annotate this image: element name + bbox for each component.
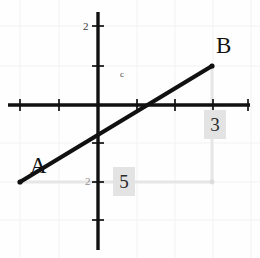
triangle-corner-dot <box>210 180 215 185</box>
point-label-b: B <box>216 34 231 57</box>
y-axis-tick-label-minus-2: 2 <box>85 176 91 187</box>
point-label-a: A <box>30 154 47 177</box>
coordinate-plane-figure: 2 2 c A B 5 3 <box>0 0 260 258</box>
rise-measure-label: 3 <box>204 110 226 139</box>
segment-ab <box>20 66 212 182</box>
line-name-c-annotation: c <box>120 70 124 79</box>
y-axis-tick-label-2: 2 <box>83 21 89 32</box>
endpoint-a-dot <box>17 179 22 184</box>
endpoint-b-dot <box>209 63 214 68</box>
run-measure-label: 5 <box>113 167 135 196</box>
